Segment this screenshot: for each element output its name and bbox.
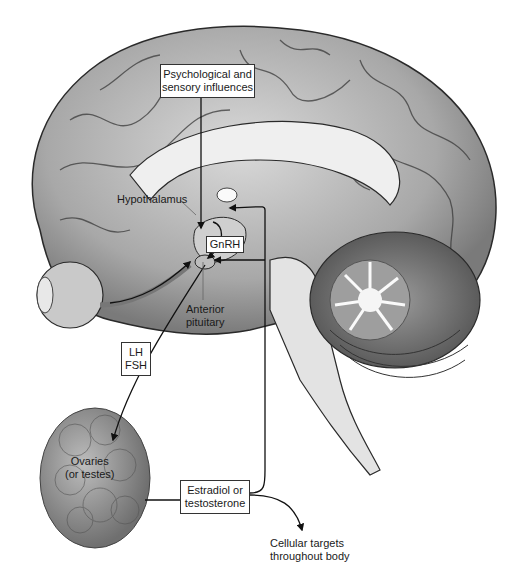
- psych-line-1: Psychological and: [161, 68, 254, 81]
- cerebellum: [310, 232, 480, 377]
- ovaries-label: Ovaries (or testes): [65, 455, 115, 481]
- cellular-targets-label: Cellular targets throughout body: [270, 537, 350, 563]
- lh-label: LH: [122, 346, 150, 359]
- thalamus-highlight: [217, 188, 237, 202]
- anterior-line-2: pituitary: [186, 316, 225, 329]
- anterior-pituitary-label: Anterior pituitary: [186, 303, 225, 329]
- hormone-line-1: Estradiol or: [181, 484, 249, 497]
- psych-line-2: sensory influences: [161, 81, 254, 94]
- hypothalamus-label: Hypothalamus: [117, 193, 187, 206]
- fsh-label: FSH: [122, 359, 150, 372]
- lh-fsh-box: LH FSH: [121, 342, 151, 376]
- gnrh-box: GnRH: [206, 236, 244, 253]
- pituitary: [195, 255, 215, 269]
- hormone-line-2: testosterone: [181, 497, 249, 510]
- psych-influences-box: Psychological and sensory influences: [160, 64, 255, 98]
- ovaries-line-1: Ovaries: [65, 455, 115, 468]
- anterior-line-1: Anterior: [186, 303, 225, 316]
- brain-illustration: [0, 0, 512, 568]
- hormone-box: Estradiol or testosterone: [180, 480, 250, 514]
- ovaries-line-2: (or testes): [65, 468, 115, 481]
- targets-line-2: throughout body: [270, 550, 350, 563]
- targets-line-1: Cellular targets: [270, 537, 350, 550]
- gnrh-label: GnRH: [210, 238, 241, 250]
- targets-arrow: [250, 495, 302, 530]
